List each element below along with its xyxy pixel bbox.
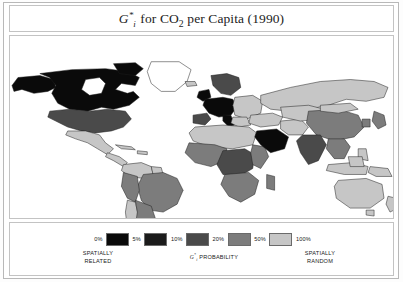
- region-scandinavia: [211, 74, 241, 96]
- figure-container: G*i for CO2 per Capita (1990): [0, 0, 403, 282]
- region-greenland: [147, 62, 191, 92]
- region-alaska: [12, 76, 56, 94]
- region-india: [297, 135, 327, 165]
- title-text-after: per Capita (1990): [184, 11, 284, 26]
- region-cuba: [115, 145, 135, 150]
- legend-captions: SPATIALLY RELATED G*i PROBABILITY SPATIA…: [10, 250, 395, 274]
- region-western-europe: [203, 97, 237, 117]
- title-panel: G*i for CO2 per Capita (1990): [9, 5, 394, 32]
- region-madagascar: [267, 174, 275, 190]
- legend-swatch-0: [106, 233, 129, 246]
- legend-caption-spatially-random: SPATIALLY RANDOM: [282, 250, 358, 265]
- region-iran: [281, 119, 309, 135]
- region-korea: [362, 119, 370, 127]
- legend-caption-left-line2: RELATED: [62, 258, 134, 266]
- legend-caption-probability-text: PROBABILITY: [198, 254, 239, 260]
- legend-caption-left-line1: SPATIALLY: [62, 250, 134, 258]
- region-japan: [372, 111, 386, 129]
- legend-tick-0: 0%: [91, 236, 106, 242]
- legend-tick-5: 100%: [292, 236, 314, 242]
- region-iceland: [185, 82, 197, 87]
- region-southern-africa: [221, 173, 259, 203]
- region-turkey-caucasus: [249, 113, 283, 127]
- legend-swatch-3: [228, 233, 251, 246]
- title-subscript-i: i: [133, 18, 136, 28]
- region-new-guinea: [368, 167, 392, 177]
- legend-caption-symbol-G: G*i: [190, 254, 198, 260]
- legend-tick-4: 50%: [251, 236, 270, 242]
- region-southeast-asia: [326, 139, 350, 159]
- title-symbol-G: G*i: [119, 11, 137, 26]
- region-tasmania: [366, 210, 374, 216]
- legend-caption-probability: G*i PROBABILITY: [166, 254, 262, 262]
- region-new-zealand: [386, 196, 393, 212]
- legend-swatch-4: [269, 233, 292, 246]
- legend-tick-1: 5%: [129, 236, 144, 242]
- legend-swatch-2: [186, 233, 209, 246]
- figure-title: G*i for CO2 per Capita (1990): [119, 11, 284, 27]
- legend-color-ramp: 0% 5% 10% 20% 50% 100%: [10, 229, 395, 249]
- legend-swatch-1: [144, 233, 167, 246]
- legend-tick-3: 20%: [209, 236, 228, 242]
- region-central-africa: [217, 149, 255, 177]
- legend-caption-right-line1: SPATIALLY: [282, 250, 358, 258]
- legend-caption-superscript-asterisk: *: [194, 253, 196, 257]
- map-panel: [9, 35, 394, 219]
- region-iberia: [193, 113, 211, 125]
- legend-caption-spatially-related: SPATIALLY RELATED: [62, 250, 134, 265]
- region-mongolia: [320, 103, 358, 113]
- world-choropleth-map: [10, 36, 393, 218]
- legend-tick-2: 10%: [167, 236, 186, 242]
- legend-panel: 0% 5% 10% 20% 50% 100% SPATIALLY RELATED…: [9, 222, 394, 276]
- region-hispaniola: [137, 151, 147, 155]
- region-mexico: [66, 131, 114, 155]
- region-borneo: [348, 157, 364, 167]
- title-text-before-sub: for CO: [137, 11, 179, 26]
- region-peru-bolivia: [121, 173, 139, 203]
- legend-caption-right-line2: RANDOM: [282, 258, 358, 266]
- region-australia: [334, 178, 384, 208]
- region-united-states: [48, 109, 132, 133]
